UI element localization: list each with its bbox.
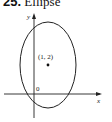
y-axis-arrow-icon — [32, 13, 36, 19]
origin-label: 0 — [36, 85, 40, 93]
y-axis-label: y — [26, 13, 31, 21]
ellipse-diagram: (1, 2) 0 x y — [0, 0, 112, 122]
center-point-label: (1, 2) — [38, 53, 54, 61]
x-axis-label: x — [96, 97, 101, 105]
center-point — [47, 64, 50, 67]
x-axis-arrow-icon — [96, 92, 102, 96]
